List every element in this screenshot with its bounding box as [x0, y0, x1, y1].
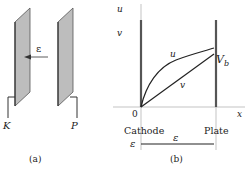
- panel-a: ε K P (a): [2, 8, 78, 164]
- field-left-label: ε: [130, 138, 135, 149]
- anode-plate: [58, 8, 73, 106]
- plate-label-p: P: [70, 120, 78, 131]
- caption-a: (a): [29, 154, 41, 164]
- field-mid-label: ε: [173, 132, 178, 143]
- cathode-label: Cathode: [124, 125, 165, 136]
- vb-label: Vb: [216, 53, 229, 68]
- y-axis-label: u: [117, 4, 123, 14]
- field-label-a: ε: [36, 43, 41, 54]
- cathode-lead: [8, 97, 15, 118]
- curve-v-label: v: [180, 80, 185, 90]
- caption-b: (b): [170, 154, 183, 164]
- diagram-canvas: ε K P (a) u v u v Vb 0 x Cathode Plate ε…: [0, 0, 247, 169]
- curve-u: [141, 48, 214, 107]
- x-axis-label: x: [237, 109, 242, 119]
- origin-label: 0: [132, 109, 138, 119]
- cathode-label-k: K: [2, 120, 11, 131]
- v-axis-label: v: [117, 28, 122, 38]
- curve-u-label: u: [170, 49, 176, 59]
- plate-lead: [70, 97, 77, 118]
- plate-label: Plate: [204, 125, 229, 136]
- panel-b: u v u v Vb 0 x Cathode Plate ε ε (b): [113, 4, 245, 164]
